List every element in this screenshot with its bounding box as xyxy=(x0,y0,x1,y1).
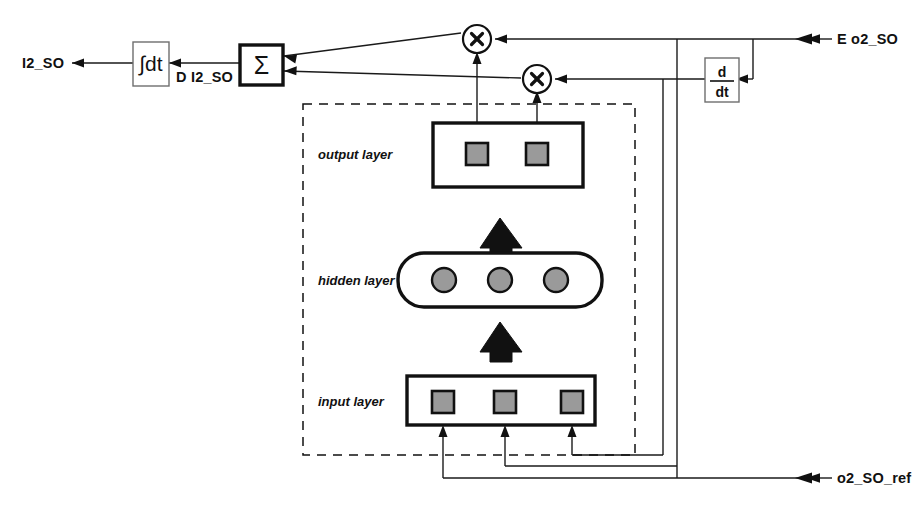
wire-reference-to-input1 xyxy=(439,425,801,478)
output-signal-label: I2_SO xyxy=(22,55,64,71)
multiplier-2[interactable] xyxy=(523,65,551,93)
hidden-node-1[interactable] xyxy=(432,268,456,292)
hidden-layer-group: hidden layer xyxy=(318,253,602,307)
input-layer-label: input layer xyxy=(318,394,385,409)
derivative-block[interactable]: d dt xyxy=(705,58,739,102)
output-layer-box[interactable] xyxy=(433,123,583,187)
hidden-node-3[interactable] xyxy=(544,268,568,292)
wire-mul2-to-summer xyxy=(284,66,521,78)
error-signal-label: E o2_SO xyxy=(837,31,898,47)
derivative-numerator-label: d xyxy=(718,64,727,80)
input-layer-group: input layer xyxy=(318,376,595,425)
multiplier-1[interactable] xyxy=(463,25,491,53)
wire-derivative-to-mul2 xyxy=(555,75,705,84)
control-block-diagram: ∫dt Σ d dt output layer h xyxy=(0,0,913,508)
error-input-arrowhead xyxy=(795,34,832,45)
hidden-node-2[interactable] xyxy=(488,268,512,292)
integrator-label: ∫dt xyxy=(138,52,162,76)
integrator-block[interactable]: ∫dt xyxy=(133,42,169,86)
summing-junction-block[interactable]: Σ xyxy=(240,45,283,85)
wire-mul1-to-summer xyxy=(284,33,461,64)
wire-error-to-mul1 xyxy=(495,35,800,44)
output-layer-group: output layer xyxy=(318,123,583,187)
reference-input-arrowhead xyxy=(795,473,832,484)
input-node-3[interactable] xyxy=(561,391,583,413)
derivative-signal-label: D I2_SO xyxy=(176,69,233,85)
output-layer-label: output layer xyxy=(318,147,393,162)
summer-label: Σ xyxy=(254,51,269,79)
output-node-1[interactable] xyxy=(466,143,488,165)
reference-signal-label: o2_SO_ref xyxy=(837,470,911,486)
input-to-hidden-arrow xyxy=(480,322,522,362)
wire-integrator-to-output xyxy=(72,59,133,68)
input-node-1[interactable] xyxy=(432,391,454,413)
input-node-2[interactable] xyxy=(494,391,516,413)
output-node-2[interactable] xyxy=(526,143,548,165)
wire-summer-to-integrator xyxy=(169,59,240,68)
derivative-denominator-label: dt xyxy=(715,84,729,100)
feedback-rail-outer-to-input2 xyxy=(501,425,678,466)
hidden-layer-label: hidden layer xyxy=(318,273,396,288)
diagram-canvas: ∫dt Σ d dt output layer h xyxy=(0,0,913,508)
